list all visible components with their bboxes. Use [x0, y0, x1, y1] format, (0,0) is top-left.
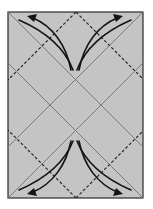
- paper-sheet: [8, 12, 143, 198]
- origami-diagram: [0, 0, 153, 209]
